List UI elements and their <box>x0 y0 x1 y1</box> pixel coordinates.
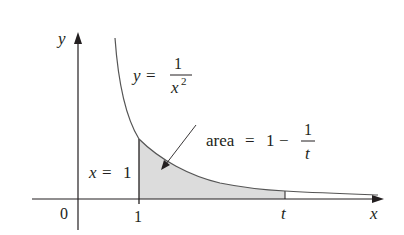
area-minus: − <box>279 131 289 150</box>
vline-var: x <box>88 163 97 182</box>
function-denominator-exp: 2 <box>181 75 187 87</box>
origin-label: 0 <box>60 205 68 222</box>
x-axis-label: x <box>369 204 378 223</box>
y-axis-label: y <box>56 29 66 48</box>
tick-1-label: 1 <box>134 208 142 225</box>
area-denominator: t <box>305 144 311 163</box>
x-axis-arrow-icon <box>372 195 384 203</box>
tick-t-label: t <box>281 204 287 223</box>
area-numerator: 1 <box>304 121 312 138</box>
vline-eq: = <box>102 163 112 182</box>
function-denominator-var: x <box>170 78 179 97</box>
function-lhs: y <box>131 66 141 85</box>
function-eq: = <box>146 66 156 85</box>
area-eq: = <box>245 131 255 150</box>
area-one: 1 <box>266 131 275 150</box>
vline-val: 1 <box>123 163 132 182</box>
function-numerator: 1 <box>174 55 182 72</box>
area-under-curve-diagram: y x 0 1 t y = 1 x 2 area = 1 − 1 t x = 1 <box>0 0 404 235</box>
area-pointer-line <box>166 125 196 164</box>
y-axis-arrow-icon <box>74 32 82 44</box>
area-word: area <box>206 131 235 150</box>
